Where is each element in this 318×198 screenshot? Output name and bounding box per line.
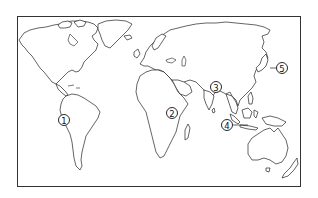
marker-5-label: 5 — [279, 64, 284, 74]
australia-outline — [248, 128, 288, 164]
new-guinea-outline — [262, 116, 286, 126]
philippines-outline — [248, 92, 253, 104]
arctic-islands-outline — [58, 21, 72, 28]
borneo-outline — [242, 108, 252, 118]
central-america-outline — [56, 84, 68, 96]
continents — [19, 20, 298, 178]
world-map: 1 2 3 4 5 — [0, 0, 318, 198]
caribbean-islands — [68, 85, 80, 88]
marker-1-label: 1 — [61, 116, 66, 126]
marker-2[interactable]: 2 — [167, 108, 178, 119]
marker-3[interactable]: 3 — [211, 82, 222, 93]
sri-lanka-outline — [212, 108, 215, 113]
south-america-outline — [60, 94, 100, 170]
british-isles-outline — [134, 49, 140, 58]
iceland-outline — [124, 35, 132, 40]
marker-1[interactable]: 1 — [59, 115, 70, 126]
marker-3-label: 3 — [213, 83, 218, 93]
madagascar-outline — [185, 124, 190, 140]
marker-5[interactable]: 5 — [270, 63, 288, 74]
new-zealand-outline — [282, 158, 298, 178]
tasmania-outline — [266, 168, 270, 172]
sulawesi-outline — [254, 110, 258, 118]
marker-4-label: 4 — [224, 121, 229, 131]
greenland-outline — [98, 20, 132, 48]
north-america-outline — [19, 21, 98, 84]
java-islands-outline — [240, 125, 258, 130]
marker-2-label: 2 — [169, 109, 174, 119]
world-map-svg: 1 2 3 4 5 — [0, 0, 318, 198]
